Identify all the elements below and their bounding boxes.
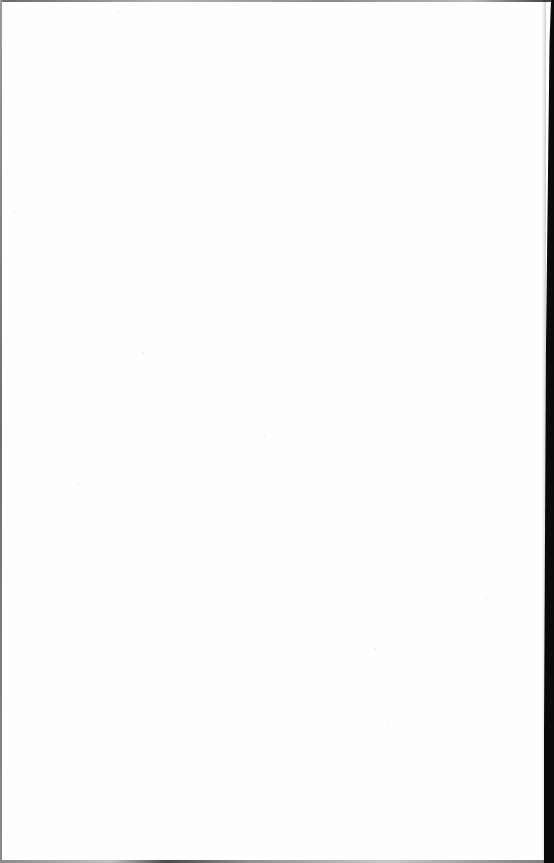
paper-speck — [14, 211, 15, 212]
paper-speck — [486, 598, 487, 599]
paper-speck — [143, 352, 144, 353]
left-scan-edge — [0, 0, 2, 863]
paper-speck — [78, 483, 79, 484]
paper-speck — [388, 724, 389, 725]
scanned-page — [0, 0, 554, 863]
blank-paper-sheet — [0, 0, 546, 863]
top-scan-edge — [0, 0, 554, 2]
paper-speck — [264, 435, 265, 436]
paper-speck — [375, 648, 376, 649]
paper-speck — [118, 12, 119, 13]
paper-speck — [266, 158, 267, 159]
